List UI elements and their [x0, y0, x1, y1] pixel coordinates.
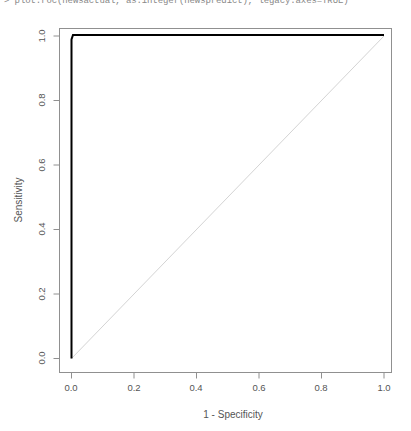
- x-axis-ticks: [72, 373, 385, 379]
- x-tick-label-1: 0.2: [127, 382, 140, 393]
- x-tick-label-0: 0.0: [64, 382, 77, 393]
- y-tick-label-2: 0.4: [36, 222, 47, 235]
- y-tick-label-4: 0.8: [36, 93, 47, 106]
- roc-plot: 0.0 0.2 0.4 0.6 0.8 1.0 0.0 0.2 0.4 0.6 …: [0, 0, 411, 431]
- y-axis-title: Sensitivity: [13, 177, 24, 222]
- x-tick-label-4: 0.8: [314, 382, 327, 393]
- r-graphics-device-window: > plot.roc(newsactual, as.integer(newspr…: [0, 0, 411, 431]
- y-tick-label-5: 1.0: [36, 29, 47, 42]
- chance-diagonal-line: [72, 36, 385, 359]
- y-tick-label-0: 0.0: [36, 351, 47, 364]
- y-tick-label-1: 0.2: [36, 287, 47, 300]
- y-axis-ticks: [54, 36, 60, 359]
- x-tick-label-2: 0.4: [189, 382, 202, 393]
- x-tick-label-5: 1.0: [377, 382, 390, 393]
- y-tick-label-3: 0.6: [36, 158, 47, 171]
- x-tick-label-3: 0.6: [252, 382, 265, 393]
- roc-plot-canvas: [0, 0, 411, 431]
- x-axis-title: 1 - Specificity: [203, 409, 262, 420]
